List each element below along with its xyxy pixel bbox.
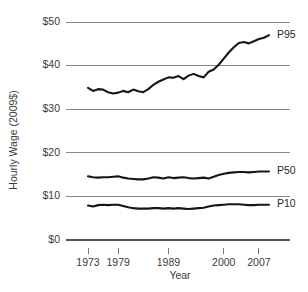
chart-container: $0$10$20$30$40$50 19731979198920002007 P… [0, 0, 308, 292]
y-axis-tick-label: $10 [42, 189, 60, 201]
series-line-p50 [88, 172, 269, 180]
series-line-p95 [88, 35, 269, 93]
y-axis-tick-labels: $0$10$20$30$40$50 [42, 15, 60, 245]
series-lines-group [88, 35, 269, 209]
series-label-p10: P10 [277, 197, 296, 209]
y-axis-tick-label: $30 [42, 102, 60, 114]
y-axis-tick-label: $20 [42, 146, 60, 158]
y-axis-tick-label: $40 [42, 58, 60, 70]
x-axis-tick-label: 1973 [76, 256, 100, 268]
x-axis-tick-label: 2007 [247, 256, 271, 268]
x-axis-tick-labels: 19731979198920002007 [76, 256, 270, 268]
x-axis-tick-label: 1989 [157, 256, 181, 268]
series-labels-group: P95P50P10 [277, 28, 296, 210]
series-label-p95: P95 [277, 28, 296, 40]
y-axis-tick-label: $0 [48, 233, 60, 245]
y-axis-title: Hourly Wage (2009$) [7, 90, 19, 189]
series-label-p50: P50 [277, 164, 296, 176]
x-axis-tick-label: 2000 [212, 256, 236, 268]
series-line-p10 [88, 204, 269, 209]
y-axis-tick-label: $50 [42, 15, 60, 27]
x-axis-tick-label: 1979 [106, 256, 130, 268]
x-axis-title: Year [169, 269, 191, 281]
x-axis-tickmarks [88, 248, 259, 254]
wage-percentile-line-chart: $0$10$20$30$40$50 19731979198920002007 P… [0, 0, 308, 292]
